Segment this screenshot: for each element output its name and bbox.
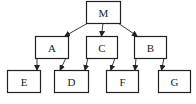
node-label: D	[68, 76, 76, 88]
node-label: A	[48, 42, 56, 54]
node-label: C	[98, 42, 105, 54]
node-b: B	[135, 37, 167, 59]
nodes: MACBEDFG	[8, 2, 191, 93]
edge-c-to-d	[85, 58, 88, 70]
node-label: E	[21, 76, 28, 88]
edge-a-to-d	[60, 58, 66, 70]
node-label: B	[147, 42, 154, 54]
node-g: G	[159, 71, 191, 93]
node-a: A	[36, 37, 69, 59]
edge-m-to-c	[102, 23, 104, 36]
edge-m-to-b	[118, 23, 137, 36]
node-label: F	[119, 76, 125, 88]
node-f: F	[107, 71, 139, 93]
node-c: C	[87, 37, 118, 59]
node-d: D	[55, 71, 89, 93]
node-m: M	[87, 2, 121, 24]
node-label: M	[99, 7, 109, 19]
dependency-diagram: MACBEDFG	[0, 0, 196, 104]
node-label: G	[171, 76, 179, 88]
edge-b-to-g	[162, 58, 164, 70]
edge-b-to-f	[135, 58, 136, 70]
edge-m-to-a	[65, 23, 88, 36]
edge-c-to-f	[111, 58, 115, 70]
node-e: E	[8, 71, 41, 93]
